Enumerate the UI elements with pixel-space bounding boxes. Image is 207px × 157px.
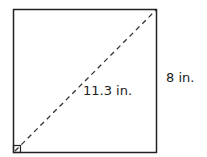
side-label: 8 in.	[166, 71, 194, 85]
diagonal-line	[15, 10, 156, 151]
diagonal-label: 11.3 in.	[83, 84, 132, 98]
